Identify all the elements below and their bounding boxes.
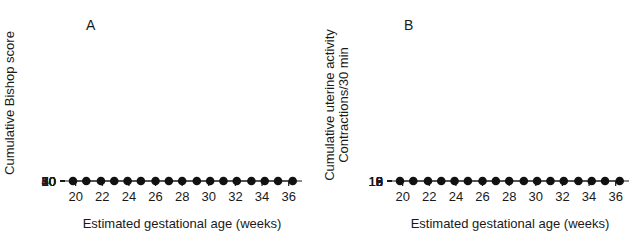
data-point [69, 177, 78, 186]
x-tick-label: 24 [449, 189, 463, 204]
panel-b-x-axis-title: Estimated gestational age (weeks) [411, 216, 610, 231]
data-point [97, 177, 106, 186]
panel-a-data-series [69, 177, 297, 186]
data-point [601, 177, 610, 186]
data-point [232, 177, 241, 186]
data-point [219, 177, 228, 186]
x-tick-label: 22 [95, 189, 109, 204]
data-point [396, 177, 405, 186]
data-point [587, 177, 596, 186]
data-point [260, 177, 269, 186]
panel-b-letter: B [404, 17, 413, 33]
data-point [151, 177, 160, 186]
panel-a-x-axis-title: Estimated gestational age (weeks) [83, 216, 282, 231]
panel-b-data-series [396, 177, 624, 186]
y-tick-label: 18 [369, 174, 383, 189]
data-point [288, 177, 297, 186]
panel-a: 10203040506070 202224262830323436 A Esti… [0, 0, 320, 236]
panel-b-y-axis-title-line1: Cumulative uterine activity [322, 29, 337, 181]
panel-a-letter: A [86, 17, 96, 33]
panel-b: 0369121518 202224262830323436 B Estimate… [320, 0, 641, 236]
data-point [409, 177, 418, 186]
data-point [437, 177, 446, 186]
x-tick-label: 32 [228, 189, 242, 204]
x-tick-label: 20 [395, 189, 409, 204]
data-point [193, 177, 202, 186]
data-point [110, 177, 119, 186]
x-tick-label: 36 [281, 189, 295, 204]
x-tick-label: 28 [175, 189, 189, 204]
x-tick-label: 36 [608, 189, 622, 204]
panel-b-x-tick-labels: 202224262830323436 [395, 189, 623, 204]
panel-a-plot: 10203040506070 202224262830323436 A Esti… [0, 0, 320, 236]
data-point [178, 177, 187, 186]
data-point [424, 177, 433, 186]
x-tick-label: 26 [475, 189, 489, 204]
x-tick-label: 26 [148, 189, 162, 204]
panel-b-y-tick-labels: 0369121518 [369, 174, 383, 189]
data-point [206, 177, 215, 186]
data-point [478, 177, 487, 186]
x-tick-label: 30 [529, 189, 543, 204]
data-point [492, 177, 501, 186]
data-point [123, 177, 132, 186]
data-point [450, 177, 459, 186]
x-tick-label: 32 [555, 189, 569, 204]
data-point [533, 177, 542, 186]
x-tick-label: 34 [255, 189, 269, 204]
panel-a-y-axis-title: Cumulative Bishop score [2, 31, 17, 175]
data-point [82, 177, 91, 186]
two-panel-figure: 10203040506070 202224262830323436 A Esti… [0, 0, 641, 236]
data-point [574, 177, 583, 186]
data-point [520, 177, 529, 186]
x-tick-label: 34 [582, 189, 596, 204]
panel-b-plot: 0369121518 202224262830323436 B Estimate… [320, 0, 641, 236]
panel-a-y-tick-labels: 10203040506070 [42, 174, 56, 189]
data-point [546, 177, 555, 186]
panel-a-x-tick-labels: 202224262830323436 [68, 189, 296, 204]
data-point [274, 177, 283, 186]
data-point [247, 177, 256, 186]
data-point [559, 177, 568, 186]
data-point [505, 177, 514, 186]
x-tick-label: 20 [68, 189, 82, 204]
data-point [615, 177, 624, 186]
y-tick-label: 70 [42, 174, 56, 189]
panel-b-y-axis-title-line2: Contractions/30 min [336, 47, 351, 163]
data-point [464, 177, 473, 186]
data-point [137, 177, 146, 186]
x-tick-label: 30 [202, 189, 216, 204]
x-tick-label: 22 [422, 189, 436, 204]
data-point [165, 177, 174, 186]
x-tick-label: 28 [502, 189, 516, 204]
x-tick-label: 24 [122, 189, 136, 204]
